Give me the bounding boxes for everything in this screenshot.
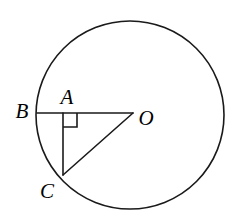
right-angle-mark-at-A (63, 113, 77, 127)
segment-CO (63, 113, 133, 175)
point-label-C: C (40, 181, 54, 202)
point-label-A: A (61, 87, 74, 108)
geometry-canvas (0, 0, 244, 224)
geometry-figure: B A O C (0, 0, 244, 224)
point-label-B: B (16, 101, 29, 122)
point-label-O: O (138, 108, 153, 129)
